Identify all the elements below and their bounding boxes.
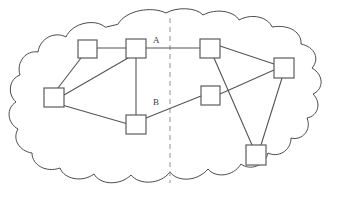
node-n6[interactable] <box>274 58 294 78</box>
edge-label-b: B <box>153 98 159 107</box>
node-n3[interactable] <box>44 88 64 107</box>
node-n4[interactable] <box>126 115 146 134</box>
edge-label-a: A <box>153 36 160 45</box>
node-n1[interactable] <box>78 40 97 58</box>
node-n8[interactable] <box>246 145 266 165</box>
diagram-canvas <box>0 0 339 198</box>
node-n2[interactable] <box>126 39 146 58</box>
node-n7[interactable] <box>201 86 220 105</box>
network-partition-figure: A B <box>0 0 339 198</box>
node-n5[interactable] <box>200 39 220 58</box>
